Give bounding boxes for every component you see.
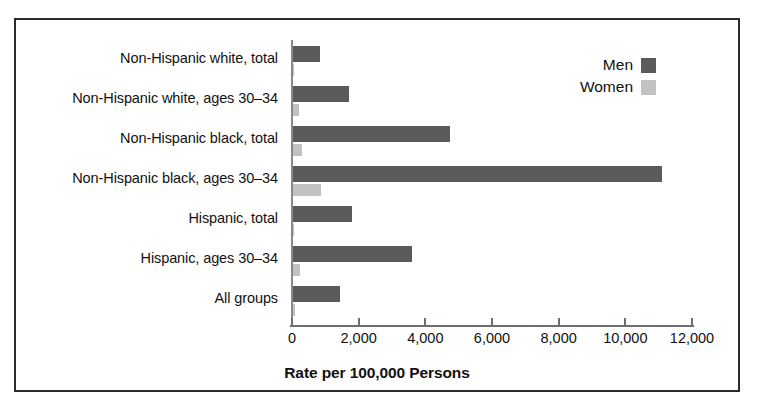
x-axis-tick (558, 318, 560, 327)
legend-swatch-women (641, 80, 656, 95)
legend-item-men: Men (496, 54, 656, 76)
bar-men (292, 126, 450, 142)
x-axis-tick (358, 318, 360, 327)
category-label: Non-Hispanic black, total (120, 130, 278, 146)
category-label: Hispanic, ages 30–34 (141, 250, 278, 266)
x-axis-tick-label: 4,000 (407, 330, 443, 346)
x-axis-tick (491, 318, 493, 327)
category-label: Non-Hispanic black, ages 30–34 (72, 170, 278, 186)
plot-area: Non-Hispanic white, total Non-Hispanic w… (16, 20, 738, 390)
chart-frame: Non-Hispanic white, total Non-Hispanic w… (14, 18, 740, 392)
x-axis-tick (424, 318, 426, 327)
bar-men (292, 86, 349, 102)
legend-label-women: Women (580, 78, 633, 96)
x-axis-title: Rate per 100,000 Persons (16, 364, 738, 382)
category-label: All groups (215, 290, 278, 306)
category-label: Hispanic, total (188, 210, 278, 226)
x-axis-tick (624, 318, 626, 327)
y-axis-line (291, 40, 293, 326)
bar-men (292, 206, 352, 222)
bar-men (292, 286, 340, 302)
chart-legend: Men Women (496, 54, 656, 98)
bar-women (292, 264, 300, 276)
x-axis-tick-label: 12,000 (670, 330, 714, 346)
legend-item-women: Women (496, 76, 656, 98)
x-axis-tick-label: 2,000 (341, 330, 377, 346)
x-axis-tick-label: 0 (288, 330, 296, 346)
category-label: Non-Hispanic white, ages 30–34 (72, 90, 278, 106)
bar-men (292, 166, 662, 182)
category-label: Non-Hispanic white, total (120, 50, 278, 66)
x-axis-tick (691, 318, 693, 327)
x-axis-tick-label: 8,000 (541, 330, 577, 346)
bar-women (292, 144, 302, 156)
x-axis-tick-label: 10,000 (603, 330, 647, 346)
x-axis-tick (291, 318, 293, 327)
legend-swatch-men (641, 58, 656, 73)
legend-label-men: Men (603, 56, 633, 74)
bar-men (292, 46, 320, 62)
bar-men (292, 246, 412, 262)
bar-women (292, 184, 321, 196)
x-axis-tick-label: 6,000 (474, 330, 510, 346)
